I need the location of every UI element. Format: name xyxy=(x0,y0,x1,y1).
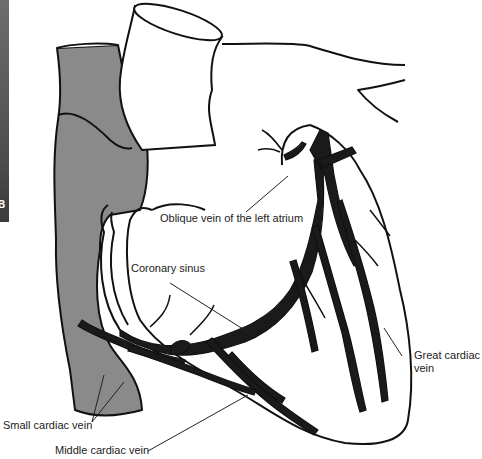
label-middle-cardiac-vein: Middle cardiac vein xyxy=(55,444,149,457)
label-great-cardiac-vein-line1: Great cardiac xyxy=(414,349,480,362)
aorta-shape xyxy=(120,0,226,150)
leader-oblique-vein xyxy=(246,176,288,212)
label-oblique-vein: Oblique vein of the left atrium xyxy=(160,212,303,225)
leader-middle-cardiac-vein xyxy=(148,395,248,451)
leader-great-cardiac-vein xyxy=(384,328,402,356)
label-coronary-sinus: Coronary sinus xyxy=(131,262,205,275)
heart-illustration xyxy=(0,0,482,459)
label-great-cardiac-vein: Great cardiac vein xyxy=(414,349,480,375)
label-great-cardiac-vein-line2: vein xyxy=(414,362,480,375)
leader-coronary-sinus xyxy=(170,283,254,336)
heart-vein-diagram: B xyxy=(0,0,482,459)
label-small-cardiac-vein: Small cardiac vein xyxy=(3,419,92,432)
